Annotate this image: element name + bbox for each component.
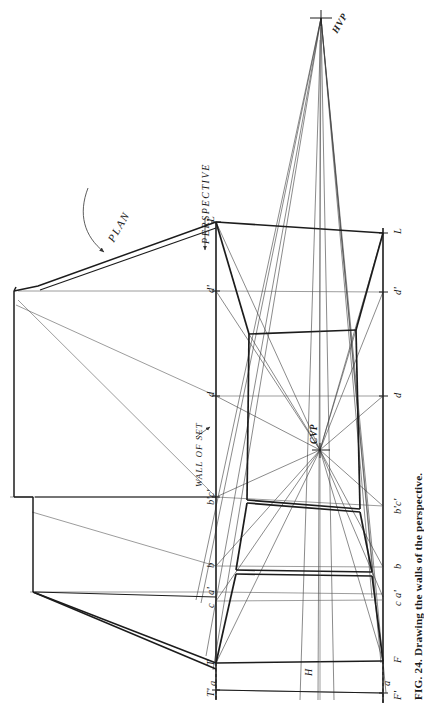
hvp-marker bbox=[310, 10, 332, 26]
point-label-right-L: L bbox=[392, 228, 403, 234]
label-cvp: CVP bbox=[309, 424, 319, 444]
point-label-right-a: a bbox=[381, 680, 392, 686]
label-wall-of-set: WALL OF SET bbox=[194, 422, 204, 487]
plan-construction-lines bbox=[10, 291, 216, 592]
point-label-right-bc-prime: b'c' bbox=[392, 498, 403, 514]
label-perspective: PERSPECTIVE bbox=[200, 163, 211, 244]
point-label-left-c: c bbox=[205, 603, 216, 608]
point-label-right-b: b bbox=[392, 563, 403, 569]
point-label-right-d: d bbox=[392, 392, 403, 398]
point-label-left-d: d bbox=[205, 391, 216, 397]
perspective-wall-box bbox=[216, 222, 383, 663]
point-label-left-T: T bbox=[205, 660, 216, 666]
point-label-right-F-prime: F' bbox=[392, 691, 403, 700]
point-label-left-b: b bbox=[205, 562, 216, 568]
label-horizon: H bbox=[303, 668, 314, 676]
figure-caption: FIG. 24. Drawing the walls of the perspe… bbox=[412, 473, 424, 700]
point-label-left-a: a bbox=[207, 680, 218, 686]
ground-line bbox=[216, 690, 383, 693]
point-label-left-d-prime: d' bbox=[205, 285, 216, 293]
point-label-left-bc-prime: b'c' bbox=[205, 489, 216, 505]
point-label-left-L: L bbox=[205, 216, 216, 222]
horizon-line bbox=[216, 661, 383, 663]
point-label-left-T-prime: T' bbox=[205, 688, 216, 697]
point-label-right-d-prime: d' bbox=[392, 287, 403, 295]
point-label-left-a-prime: a' bbox=[205, 587, 216, 595]
perspective-construction-rays bbox=[196, 18, 386, 700]
plan-leader-arrow bbox=[83, 188, 104, 252]
plan-secondary-outline bbox=[35, 228, 216, 597]
point-label-right-ca-prime: c a' bbox=[392, 590, 403, 606]
point-label-right-F: F bbox=[392, 656, 403, 663]
